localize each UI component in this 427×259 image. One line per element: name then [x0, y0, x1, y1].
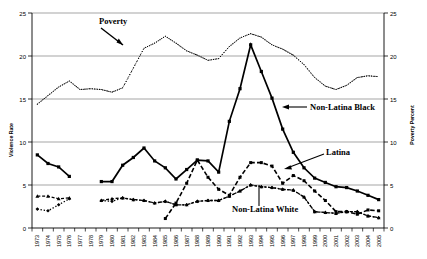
x-tick-label: 2005	[376, 235, 382, 247]
data-point	[57, 165, 60, 168]
data-point	[202, 57, 203, 58]
data-point	[303, 64, 304, 65]
data-point	[87, 88, 88, 89]
x-tick-label: 2002	[344, 235, 350, 247]
data-point	[334, 185, 337, 188]
x-tick-label: 1997	[290, 235, 296, 247]
x-tick-label: 1991	[226, 235, 232, 247]
data-point	[186, 50, 187, 51]
data-point	[190, 52, 191, 53]
data-point	[321, 83, 322, 84]
data-point	[324, 181, 327, 184]
data-point	[167, 37, 168, 38]
data-point	[356, 189, 359, 192]
data-point	[188, 51, 189, 52]
data-point	[115, 90, 116, 91]
x-tick-label: 1983	[141, 235, 147, 247]
data-point	[334, 88, 335, 89]
data-point	[257, 35, 258, 36]
data-point	[58, 86, 59, 87]
data-point	[101, 89, 102, 90]
data-point	[60, 85, 61, 86]
data-point	[156, 41, 157, 42]
data-point	[159, 39, 160, 40]
data-point	[184, 49, 185, 50]
data-point	[158, 40, 159, 41]
data-point	[78, 88, 79, 89]
left-tick-label: 5	[23, 183, 27, 189]
data-point	[161, 38, 162, 39]
data-point	[252, 34, 253, 35]
left-tick-label: 20	[19, 54, 26, 60]
data-point	[143, 48, 144, 49]
data-point	[367, 208, 370, 211]
data-point	[341, 87, 342, 88]
data-point	[126, 81, 127, 82]
data-point	[172, 40, 173, 41]
data-point	[174, 41, 175, 42]
data-point	[295, 56, 296, 57]
data-point	[88, 88, 89, 89]
data-point	[366, 194, 369, 197]
data-point	[300, 61, 301, 62]
data-point	[344, 85, 345, 86]
x-tick-label: 1973	[34, 235, 40, 247]
data-point	[330, 87, 331, 88]
data-point	[110, 180, 113, 183]
data-point	[215, 59, 216, 60]
data-point	[37, 104, 38, 105]
data-point	[53, 91, 54, 92]
data-point	[55, 89, 56, 90]
data-point	[248, 34, 249, 35]
data-point	[337, 88, 338, 89]
data-point	[264, 39, 265, 40]
data-point	[170, 39, 171, 40]
data-point	[85, 89, 86, 90]
data-point	[63, 83, 64, 84]
data-point	[241, 37, 242, 38]
data-point	[302, 166, 305, 169]
data-point	[193, 53, 194, 54]
data-point	[353, 80, 354, 81]
data-point	[238, 39, 239, 40]
right-tick-label: 25	[390, 11, 397, 17]
data-point	[377, 198, 380, 201]
data-point	[90, 88, 91, 89]
data-point	[238, 87, 241, 90]
data-point	[348, 83, 349, 84]
data-point	[131, 71, 132, 72]
data-point	[289, 53, 290, 54]
data-point	[292, 174, 295, 177]
poverty-label: Poverty	[99, 16, 128, 26]
data-point	[145, 47, 146, 48]
data-point	[69, 80, 70, 81]
data-point	[249, 161, 252, 164]
x-tick-label: 1996	[280, 235, 286, 247]
data-point	[231, 45, 232, 46]
x-tick-label: 1989	[205, 235, 211, 247]
data-point	[234, 42, 235, 43]
x-tick-label: 2003	[354, 235, 360, 247]
data-point	[213, 59, 214, 60]
data-point	[323, 84, 324, 85]
data-point	[371, 76, 372, 77]
data-point	[277, 46, 278, 47]
data-point	[97, 89, 98, 90]
data-point	[303, 179, 306, 182]
data-point	[185, 182, 188, 185]
data-point	[313, 190, 316, 193]
data-point	[153, 159, 156, 162]
data-point	[259, 36, 260, 37]
chart-figure: 25 20 15 10 5 0 25 20 15 10 5 0 Violence…	[0, 0, 427, 259]
data-point	[185, 168, 188, 171]
data-point	[364, 76, 365, 77]
data-point	[239, 37, 240, 38]
data-point	[282, 49, 283, 50]
right-tick-labels: 25 20 15 10 5 0	[390, 11, 397, 232]
data-point	[332, 88, 333, 89]
x-tick-label: 1999	[312, 235, 318, 247]
data-point	[197, 55, 198, 56]
data-point	[79, 89, 80, 90]
data-point	[40, 101, 41, 102]
data-point	[339, 88, 340, 89]
